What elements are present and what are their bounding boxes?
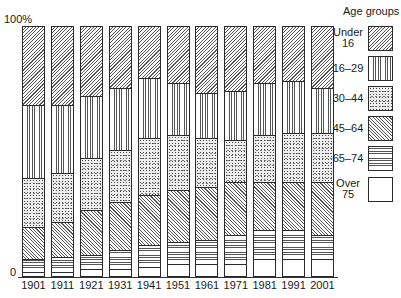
bar-segment bbox=[225, 265, 246, 275]
bar-segment bbox=[283, 260, 304, 275]
bar-segment bbox=[52, 273, 73, 275]
legend-swatch bbox=[368, 177, 393, 202]
bar-1991 bbox=[282, 26, 305, 277]
x-tick-label: 1981 bbox=[249, 279, 281, 291]
bar-segment bbox=[168, 84, 189, 136]
bar-1971 bbox=[224, 26, 247, 277]
bar-segment bbox=[283, 183, 304, 230]
bar-segment bbox=[168, 136, 189, 191]
bar-segment bbox=[225, 141, 246, 183]
bar-segment bbox=[283, 231, 304, 261]
x-tick-label: 2001 bbox=[307, 279, 339, 291]
bar-segment bbox=[81, 270, 102, 275]
bar-segment bbox=[110, 270, 131, 275]
bar-segment bbox=[110, 27, 131, 89]
legend-label: Under16 bbox=[328, 27, 368, 49]
bar-segment bbox=[139, 246, 160, 268]
legend-label: Over75 bbox=[328, 178, 368, 200]
bar-segment bbox=[168, 243, 189, 265]
legend-swatch bbox=[368, 26, 393, 51]
bar-segment bbox=[254, 260, 275, 275]
bar-segment bbox=[196, 241, 217, 266]
x-tick-label: 1921 bbox=[75, 279, 107, 291]
bar-segment bbox=[139, 196, 160, 246]
bar-segment bbox=[139, 139, 160, 196]
x-tick-label: 1971 bbox=[220, 279, 252, 291]
bar-segment bbox=[196, 188, 217, 240]
bar-segment bbox=[110, 89, 131, 151]
bar-segment bbox=[283, 27, 304, 82]
bar-segment bbox=[196, 265, 217, 275]
y-axis-top-label: 100% bbox=[4, 13, 32, 25]
bar-segment bbox=[283, 134, 304, 184]
bar-segment bbox=[168, 265, 189, 275]
bar-segment bbox=[81, 211, 102, 256]
legend-label: 16–29 bbox=[328, 63, 368, 74]
bar-segment bbox=[225, 183, 246, 235]
bar-1981 bbox=[253, 26, 276, 277]
legend-swatch bbox=[368, 86, 393, 111]
bar-segment bbox=[23, 27, 44, 106]
x-tick-label: 1961 bbox=[191, 279, 223, 291]
bar-segment bbox=[110, 203, 131, 250]
bar-segment bbox=[312, 236, 333, 261]
x-tick-label: 1951 bbox=[162, 279, 194, 291]
x-tick-label: 1911 bbox=[46, 279, 78, 291]
bar-segment bbox=[254, 231, 275, 261]
bar-1951 bbox=[167, 26, 190, 277]
bar-segment bbox=[23, 273, 44, 275]
bar-segment bbox=[110, 151, 131, 203]
bar-segment bbox=[81, 27, 102, 97]
y-axis-bottom-label: 0 bbox=[10, 266, 16, 278]
bar-segment bbox=[81, 256, 102, 271]
x-axis-line bbox=[18, 277, 338, 278]
bar-segment bbox=[81, 97, 102, 159]
bar-1931 bbox=[109, 26, 132, 277]
bar-segment bbox=[52, 27, 73, 106]
bar-segment bbox=[225, 236, 246, 266]
bar-segment bbox=[23, 106, 44, 178]
bar-1961 bbox=[195, 26, 218, 277]
bar-segment bbox=[52, 106, 73, 173]
bar-segment bbox=[110, 251, 131, 271]
bar-segment bbox=[168, 27, 189, 84]
bar-segment bbox=[196, 27, 217, 94]
legend-swatch bbox=[368, 146, 393, 171]
bar-segment bbox=[23, 228, 44, 260]
bar-1921 bbox=[80, 26, 103, 277]
x-tick-label: 1941 bbox=[133, 279, 165, 291]
bar-1911 bbox=[51, 26, 74, 277]
bar-segment bbox=[52, 174, 73, 224]
legend-swatch bbox=[368, 56, 393, 81]
legend-swatch bbox=[368, 116, 393, 141]
bar-segment bbox=[81, 159, 102, 211]
legend-label: 45–64 bbox=[328, 123, 368, 134]
bar-segment bbox=[139, 79, 160, 139]
bar-segment bbox=[283, 82, 304, 134]
bar-segment bbox=[196, 94, 217, 139]
bar-segment bbox=[254, 27, 275, 84]
bar-segment bbox=[52, 223, 73, 258]
bar-1901 bbox=[22, 26, 45, 277]
bar-segment bbox=[254, 183, 275, 230]
x-tick-label: 1991 bbox=[278, 279, 310, 291]
bar-segment bbox=[312, 260, 333, 275]
x-tick-label: 1901 bbox=[18, 279, 50, 291]
bar-segment bbox=[139, 27, 160, 79]
bar-segment bbox=[139, 268, 160, 275]
bar-segment bbox=[254, 84, 275, 136]
x-tick-label: 1931 bbox=[104, 279, 136, 291]
legend-title: Age groups bbox=[343, 5, 399, 17]
bar-segment bbox=[196, 139, 217, 189]
bar-1941 bbox=[138, 26, 161, 277]
legend-label: 30–44 bbox=[328, 93, 368, 104]
bar-segment bbox=[254, 136, 275, 183]
bar-segment bbox=[23, 179, 44, 229]
bar-segment bbox=[168, 191, 189, 243]
bar-segment bbox=[52, 258, 73, 273]
legend-label: 65–74 bbox=[328, 153, 368, 164]
bar-segment bbox=[225, 92, 246, 142]
bar-segment bbox=[225, 27, 246, 92]
bar-segment bbox=[23, 260, 44, 272]
